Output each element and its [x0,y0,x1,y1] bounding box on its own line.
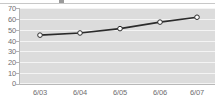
data-point-marker [195,15,200,20]
series-line [40,17,197,35]
plot-area [20,8,215,84]
x-tick-label: 6/06 [143,88,177,97]
x-tick-label: 6/04 [63,88,97,97]
x-tick-label: 6/07 [180,88,214,97]
series-line-group [20,8,215,84]
clipped-titlebar-marker [59,0,64,3]
data-point-marker [118,26,123,31]
category-axis-labels: 6/03 6/04 6/05 6/06 6/07 [0,88,215,102]
clipped-titlebar-edge [0,0,215,4]
y-axis-tick [16,62,19,63]
x-tick-label: 6/03 [23,88,57,97]
y-tick-label: 10 [0,70,16,78]
y-tick-label: 40 [0,38,16,46]
y-axis-tick [16,41,19,42]
y-axis-tick [16,84,19,85]
y-axis-tick [16,19,19,20]
y-tick-label: 0 [0,80,16,88]
y-axis-tick [16,51,19,52]
y-tick-label: 70 [0,5,16,13]
y-axis-tick [16,73,19,74]
data-point-marker [78,31,83,36]
category-axis-line [19,84,215,85]
y-axis-tick [16,30,19,31]
line-chart-widget: 70 60 50 40 30 20 10 0 6/03 6/04 6/05 6/… [0,0,215,108]
y-tick-label: 60 [0,16,16,24]
data-point-marker [38,33,43,38]
data-point-marker [158,20,163,25]
x-tick-label: 6/05 [103,88,137,97]
y-axis-tick [16,8,19,9]
y-tick-label: 20 [0,59,16,67]
y-tick-label: 50 [0,27,16,35]
y-tick-label: 30 [0,48,16,56]
